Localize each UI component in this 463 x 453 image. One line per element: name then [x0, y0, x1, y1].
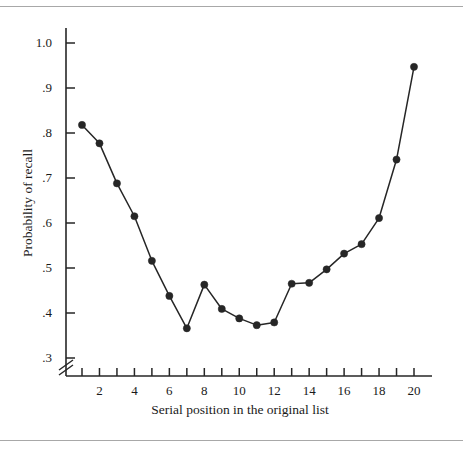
x-tick-label: 14 — [294, 384, 324, 397]
data-point — [271, 319, 278, 326]
data-point — [253, 322, 260, 329]
data-point-markers — [78, 63, 417, 332]
data-point — [306, 279, 313, 286]
x-tick-label: 6 — [154, 384, 184, 397]
x-tick-label: 8 — [189, 384, 219, 397]
data-point — [201, 281, 208, 288]
data-series-line — [82, 67, 414, 328]
data-point — [341, 250, 348, 257]
x-tick-label: 20 — [399, 384, 429, 397]
data-point — [393, 156, 400, 163]
data-point — [148, 257, 155, 264]
data-point — [375, 214, 382, 221]
x-tick-label: 2 — [84, 384, 114, 397]
data-point — [113, 180, 120, 187]
y-tick-label: .3 — [0, 351, 52, 364]
data-point — [166, 292, 173, 299]
y-tick-label: .4 — [0, 306, 52, 319]
x-tick-label: 18 — [364, 384, 394, 397]
y-tick-label: 1.0 — [0, 36, 52, 49]
data-point — [96, 140, 103, 147]
data-point — [323, 266, 330, 273]
x-tick-label: 16 — [329, 384, 359, 397]
series-polyline — [82, 67, 414, 328]
data-point — [218, 305, 225, 312]
data-point — [358, 241, 365, 248]
axes-group — [66, 28, 432, 376]
data-point — [131, 213, 138, 220]
x-axis-title: Serial position in the original list — [60, 402, 420, 418]
data-point — [410, 63, 417, 70]
y-tick-label: .9 — [0, 81, 52, 94]
figure-container: 1.0.9.8.7.6.5.4.3 2468101214161820 Proba… — [0, 0, 463, 453]
y-axis-title: Probability of recall — [20, 123, 36, 283]
x-tick-label: 4 — [119, 384, 149, 397]
serial-position-curve-chart: 1.0.9.8.7.6.5.4.3 2468101214161820 Proba… — [0, 0, 463, 453]
data-point — [288, 280, 295, 287]
ticks-group — [66, 43, 414, 376]
x-tick-label: 12 — [259, 384, 289, 397]
data-point — [236, 315, 243, 322]
data-point — [183, 325, 190, 332]
data-point — [78, 121, 85, 128]
x-tick-label: 10 — [224, 384, 254, 397]
